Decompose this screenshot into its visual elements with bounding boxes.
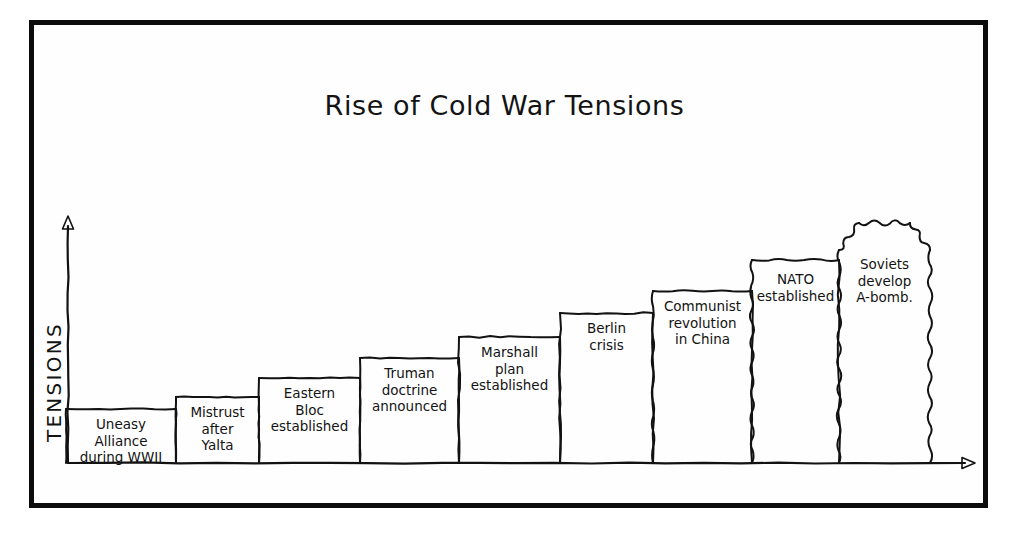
bar-label-line: Yalta <box>202 437 234 454</box>
bar-label-6: Communistrevolutionin China <box>653 291 752 463</box>
bar-label-line: established <box>271 418 348 435</box>
bar-label-line: established <box>471 377 548 394</box>
bar-label-line: Marshall <box>481 344 538 361</box>
figure-canvas: Rise of Cold War Tensions TENSIONS Uneas… <box>0 0 1009 535</box>
bar-label-line: during WWII <box>80 449 163 466</box>
bar-label-line: Mistrust <box>190 404 244 421</box>
bar-label-line: Soviets <box>860 256 909 273</box>
bar-label-line: doctrine <box>382 382 438 399</box>
bar-label-line: Uneasy Alliance <box>68 416 174 449</box>
bar-label-7: NATOestablished <box>752 260 839 463</box>
page-title: Rise of Cold War Tensions <box>0 90 1009 121</box>
bar-label-line: develop <box>858 273 912 290</box>
bar-label-3: Trumandoctrineannounced <box>360 358 459 463</box>
bar-label-8: SovietsdevelopA-bomb. <box>839 220 930 463</box>
bar-label-2: EasternBlocestablished <box>259 378 360 463</box>
bar-label-line: plan <box>495 361 524 378</box>
bar-label-line: in China <box>675 331 730 348</box>
y-axis-label: TENSIONS <box>42 312 66 452</box>
bar-label-line: Berlin <box>587 320 626 337</box>
bar-label-1: MistrustafterYalta <box>176 397 259 463</box>
bar-label-line: established <box>757 288 834 305</box>
bar-label-line: A-bomb. <box>856 289 913 306</box>
bar-label-line: Eastern <box>284 385 335 402</box>
bar-label-line: announced <box>372 398 447 415</box>
bar-label-line: after <box>202 421 234 438</box>
bar-label-4: Marshallplanestablished <box>459 337 560 463</box>
bar-label-line: Communist <box>664 298 741 315</box>
bar-label-0: Uneasy Allianceduring WWII <box>66 409 176 463</box>
bar-label-line: NATO <box>777 271 814 288</box>
bar-label-line: revolution <box>669 315 737 332</box>
bar-label-line: Truman <box>384 365 434 382</box>
bar-label-line: Bloc <box>295 402 324 419</box>
bar-label-5: Berlincrisis <box>560 313 653 463</box>
bar-label-line: crisis <box>589 337 624 354</box>
